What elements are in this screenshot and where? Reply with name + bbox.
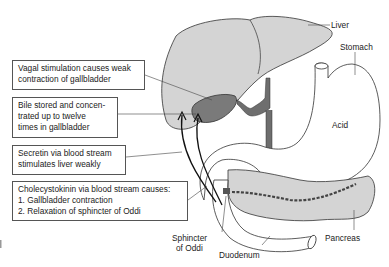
callout-line: Vagal stimulation causes weak — [18, 63, 139, 74]
callout-cholecystokinin: Cholecystokinin via blood stream causes:… — [12, 181, 188, 221]
callout-line: Cholecystokinin via blood stream causes: — [18, 184, 182, 195]
callout-line: trated up to twelve — [18, 111, 112, 122]
callout-line: Bile stored and concen- — [18, 100, 112, 111]
label-sphincter-line2: of Oddi — [176, 243, 203, 253]
callout-line: 1. Gallbladder contraction — [18, 195, 182, 206]
callout-line: Secretin via blood stream — [18, 148, 120, 159]
callout-secretin: Secretin via blood stream stimulates liv… — [12, 145, 126, 175]
label-duodenum: Duodenum — [219, 250, 260, 260]
label-acid: Acid — [332, 120, 348, 130]
callout-line: 2. Relaxation of sphincter of Oddi — [18, 206, 182, 217]
callout-line: times in gallbladder — [18, 122, 112, 133]
label-liver: Liver — [331, 20, 349, 30]
callout-vagal-stimulation: Vagal stimulation causes weak contractio… — [12, 60, 145, 90]
callout-line: contraction of gallbladder — [18, 74, 139, 85]
label-sphincter-line1: Sphincter — [172, 233, 207, 243]
callout-bile-storage: Bile stored and concen- trated up to twe… — [12, 97, 118, 138]
label-pancreas: Pancreas — [325, 233, 360, 243]
callout-line: stimulates liver weakly — [18, 159, 120, 170]
label-stomach: Stomach — [340, 42, 373, 52]
